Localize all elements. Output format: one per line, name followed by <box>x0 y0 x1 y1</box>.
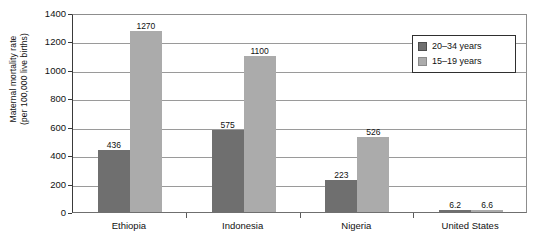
y-axis-tick-label: 600 <box>20 123 66 133</box>
legend: 20–34 years 15–19 years <box>412 35 516 73</box>
legend-swatch-icon-series-0 <box>418 42 427 51</box>
bar-value-label: 6.6 <box>465 200 509 210</box>
legend-item-1: 15–19 years <box>418 54 510 69</box>
x-axis-category-label: Nigeria <box>300 220 414 232</box>
y-axis-tick-label: 1000 <box>20 66 66 76</box>
y-axis-tick-mark <box>68 213 72 214</box>
legend-item-0: 20–34 years <box>418 39 510 54</box>
bar-united-states-series-0 <box>439 210 471 213</box>
x-axis-category-label: Ethiopia <box>72 220 186 232</box>
bar-ethiopia-series-0 <box>98 150 130 212</box>
legend-label-series-0: 20–34 years <box>432 41 482 52</box>
bar-value-label: 526 <box>351 127 395 137</box>
bar-value-label: 1270 <box>124 21 168 31</box>
x-axis-category-label: United States <box>413 220 527 232</box>
y-axis-tick-label: 400 <box>20 151 66 161</box>
legend-label-series-1: 15–19 years <box>432 56 482 67</box>
bar-chart: Maternal mortality rate (per 100,000 liv… <box>0 0 543 249</box>
bar-united-states-series-1 <box>471 210 503 213</box>
x-axis-category-label: Indonesia <box>186 220 300 232</box>
y-axis-tick-label: 1400 <box>20 9 66 19</box>
legend-swatch-icon-series-1 <box>418 57 427 66</box>
y-axis-tick-label: 800 <box>20 94 66 104</box>
y-axis-title-line1: Maternal mortality rate <box>8 4 19 154</box>
y-axis-tick-label: 200 <box>20 180 66 190</box>
bar-ethiopia-series-1 <box>130 31 162 212</box>
x-axis-tick-mark <box>413 213 414 218</box>
y-axis-tick-label: 1200 <box>20 37 66 47</box>
x-axis-tick-mark <box>186 213 187 218</box>
y-axis-tick-label: 0 <box>20 208 66 218</box>
bar-nigeria-series-1 <box>357 137 389 212</box>
x-axis-tick-mark <box>300 213 301 218</box>
bar-indonesia-series-1 <box>244 56 276 212</box>
bar-nigeria-series-0 <box>325 180 357 212</box>
bar-indonesia-series-0 <box>212 130 244 212</box>
bar-value-label: 1100 <box>238 46 282 56</box>
